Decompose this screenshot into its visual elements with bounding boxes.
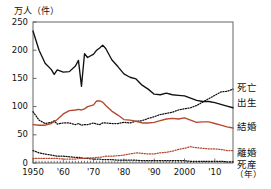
y-tick-label: 150 xyxy=(2,73,28,83)
chart-root: 万人（件） 050100150200250 1950'60'70'80'9020… xyxy=(0,0,271,189)
x-tick-label: '80 xyxy=(108,167,140,177)
legend-label-結婚: 結婚 xyxy=(237,119,257,133)
x-tick-label: '90 xyxy=(138,167,170,177)
series-line-死亡 xyxy=(33,89,233,125)
y-tick-label: 0 xyxy=(2,158,28,168)
x-tick-label: 1950 xyxy=(17,167,49,177)
y-tick-label: 250 xyxy=(2,17,28,27)
x-tick-label: '60 xyxy=(47,167,79,177)
chart-canvas xyxy=(0,0,271,189)
x-tick-label: '10 xyxy=(199,167,231,177)
y-tick-label: 50 xyxy=(2,129,28,139)
plot-frame xyxy=(33,22,233,163)
series-line-出生 xyxy=(33,31,233,108)
legend-label-出生: 出生 xyxy=(237,95,257,109)
x-tick-label: 2000 xyxy=(169,167,201,177)
legend-label-死産: 死産 xyxy=(237,157,257,171)
legend-label-死亡: 死亡 xyxy=(237,80,257,94)
y-tick-label: 200 xyxy=(2,45,28,55)
y-tick-label: 100 xyxy=(2,101,28,111)
series-line-結婚 xyxy=(33,101,233,128)
x-tick-label: '70 xyxy=(78,167,110,177)
series-line-離婚 xyxy=(33,147,233,159)
plot-area xyxy=(0,0,271,189)
